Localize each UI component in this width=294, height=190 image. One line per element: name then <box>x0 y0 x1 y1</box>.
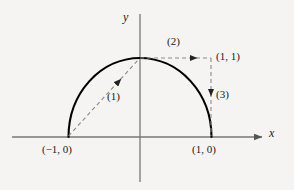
semicircle-path-diagram: y x (−1, 0) (1, 0) (1, 1) (1) (2) (3) <box>0 0 294 190</box>
point-label-left-endpoint: (−1, 0) <box>42 144 72 155</box>
y-axis-label: y <box>123 11 128 23</box>
point-label-right-endpoint: (1, 0) <box>192 144 216 155</box>
diagram-canvas <box>0 0 294 190</box>
segment-1-path <box>69 59 140 136</box>
segment-label-1: (1) <box>107 91 120 102</box>
point-label-corner: (1, 1) <box>216 51 240 62</box>
segment-label-2: (2) <box>167 36 180 47</box>
x-axis-label: x <box>269 127 274 139</box>
segment-label-3: (3) <box>216 89 229 100</box>
